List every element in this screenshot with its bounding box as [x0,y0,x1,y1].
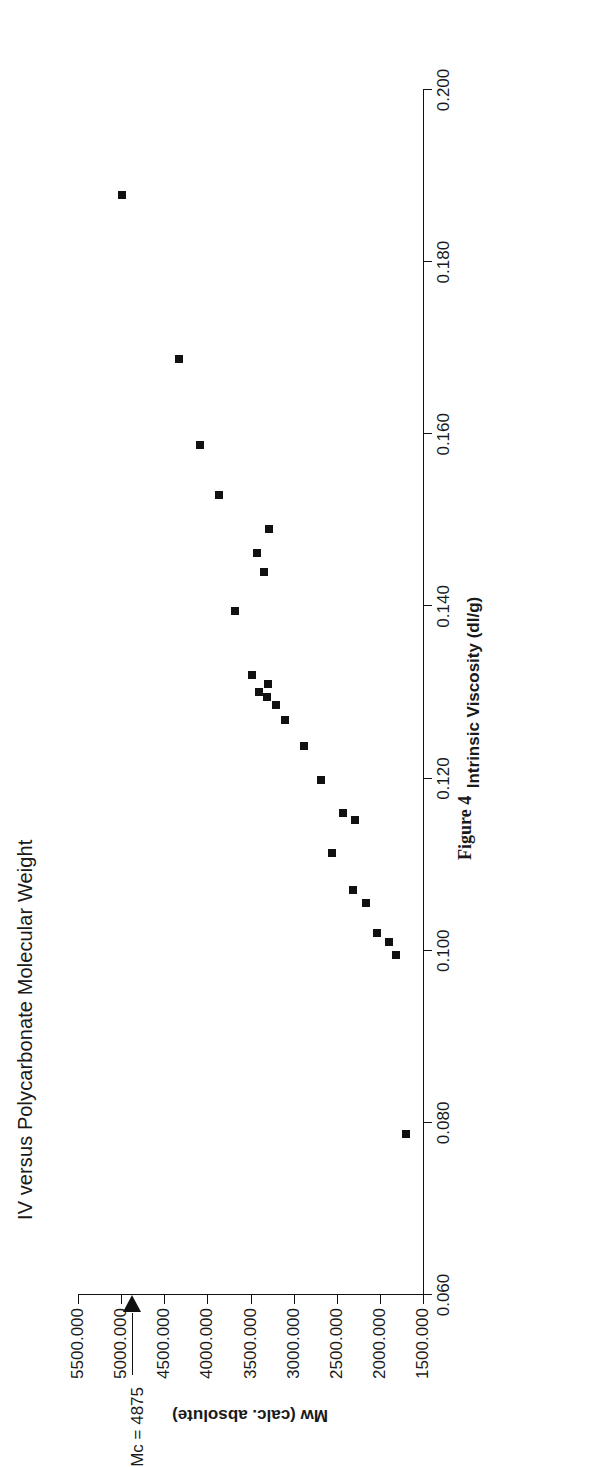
x-tick [423,950,432,951]
data-point [264,680,272,688]
y-tick [380,1295,381,1304]
mc-annotation-label: Mc = 4875 [128,1387,148,1467]
y-tick [164,1295,165,1304]
x-tick-label: 0.060 [434,1274,454,1317]
data-point [281,716,289,724]
data-point [253,549,261,557]
x-tick-label: 0.140 [434,585,454,628]
data-point [263,693,271,701]
x-tick [423,89,432,90]
x-tick-label: 0.160 [434,413,454,456]
x-tick [423,1122,432,1123]
y-tick-label: 2500.000 [327,1308,347,1379]
data-point [349,886,357,894]
data-point [215,491,223,499]
x-tick-label: 0.120 [434,757,454,800]
y-tick [294,1295,295,1304]
data-point [402,1130,410,1138]
data-point [265,525,273,533]
y-tick-label: 2000.000 [370,1308,390,1379]
y-tick [207,1295,208,1304]
y-tick [423,1295,424,1304]
y-tick [78,1295,79,1304]
data-point [175,355,183,363]
data-point [351,816,359,824]
x-tick-label: 0.100 [434,929,454,972]
data-point [328,849,336,857]
y-tick-label: 3500.000 [241,1308,261,1379]
data-point [392,951,400,959]
data-point [255,689,263,697]
figure-caption: Figure 4 [455,0,476,1460]
y-tick-label: 4000.000 [197,1308,217,1379]
y-tick-label: 5500.000 [68,1308,88,1379]
data-point [300,742,308,750]
x-tick-label: 0.200 [434,69,454,112]
data-point [362,899,370,907]
plot-area: 0.0600.0800.1000.1200.1400.1600.1800.200… [78,90,423,1295]
y-axis-title: Mw (calc. absolute) [100,1405,400,1425]
x-tick [423,433,432,434]
y-tick-label: 3000.000 [284,1308,304,1379]
data-point [272,701,280,709]
y-tick-label: 5000.000 [111,1308,131,1379]
y-tick [337,1295,338,1304]
y-tick-label: 4500.000 [154,1308,174,1379]
data-point [385,938,393,946]
mc-arrow-line [132,1313,133,1375]
x-tick [423,605,432,606]
data-point [248,671,256,679]
data-point [260,568,268,576]
x-tick [423,261,432,262]
x-tick [423,1294,432,1295]
data-point [196,441,204,449]
y-tick [251,1295,252,1304]
data-point [118,191,126,199]
x-tick [423,778,432,779]
y-tick-label: 1500.000 [413,1308,433,1379]
chart-title: IV versus Polycarbonate Molecular Weight [14,0,37,1460]
x-axis-line [423,90,424,1295]
data-point [231,607,239,615]
data-point [339,809,347,817]
data-point [373,930,381,938]
mc-arrow-head-icon [123,1295,141,1312]
x-tick-label: 0.080 [434,1102,454,1145]
data-point [317,776,325,784]
x-tick-label: 0.180 [434,241,454,284]
